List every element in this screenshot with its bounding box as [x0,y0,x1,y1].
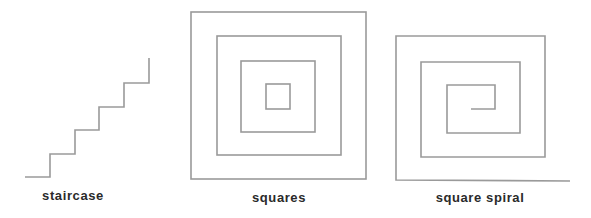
squares-label: squares [252,190,306,205]
square-spiral-figure [396,36,570,181]
staircase-label: staircase [42,188,104,203]
staircase-figure [25,58,149,177]
diagram-canvas [0,0,591,218]
squares-figure [191,12,366,179]
square-spiral-label: square spiral [436,190,525,205]
